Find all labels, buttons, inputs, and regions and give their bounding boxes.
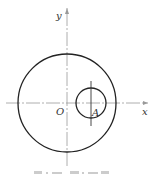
x-axis-arrow-icon [143, 101, 148, 105]
coordinate-diagram: y x O A [illegible faded caption text] [0, 0, 153, 179]
x-axis-label: x [142, 106, 148, 117]
y-axis-arrow-icon [65, 8, 69, 14]
point-a-label: A [91, 107, 99, 118]
y-axis-label: y [55, 10, 62, 21]
origin-label: O [56, 106, 64, 117]
